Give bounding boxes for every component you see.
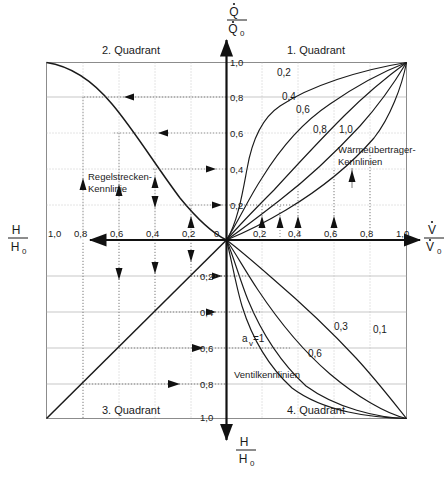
x-axis-right-label: V V 0	[424, 221, 444, 256]
quadrant1-label: 1. Quadrant	[287, 44, 345, 56]
diagram-canvas: 0,2 0,4 0,6 0,8 1,0 Wärmeübertrager- Ken…	[0, 0, 448, 477]
svg-text:1,0: 1,0	[230, 57, 243, 68]
svg-text:H: H	[240, 435, 249, 449]
quadrant4-valve-curves: 0,3 0,1 0,6 a v =1 Ventilkennlinien	[227, 240, 407, 419]
construction-flow-lines	[80, 94, 371, 419]
quadrant2-label: 2. Quadrant	[102, 44, 160, 56]
q-dot-top-den	[232, 21, 234, 23]
svg-text:Q: Q	[229, 5, 238, 19]
svg-text:0,6: 0,6	[324, 228, 337, 239]
x-axis-left-ticks: 0,2 0,4 0,6 0,8 1,0	[48, 228, 195, 239]
curve-label-valve-01: 0,1	[373, 324, 387, 335]
he-annotation-pointer-arrow	[349, 170, 356, 182]
curve-label-he-10: 1,0	[339, 124, 353, 135]
heat-exchanger-annotation-line1: Wärmeübertrager-	[338, 144, 416, 155]
svg-text:H: H	[12, 223, 21, 237]
svg-text:0,2: 0,2	[253, 228, 266, 239]
quadrant3-label: 3. Quadrant	[102, 404, 160, 416]
flow-q3-v4-arrow	[188, 250, 195, 262]
svg-text:H: H	[239, 452, 248, 466]
svg-text:0: 0	[250, 459, 255, 468]
origin-label: 0	[214, 228, 219, 239]
flow-q3-v2-arrow	[116, 268, 123, 280]
curve-diagonal	[47, 240, 227, 419]
y-axis-bottom-ticks: 0,2 0,4 0,6 0,8 1,0	[200, 271, 213, 423]
curve-label-he-08: 0,8	[313, 124, 327, 135]
flow-q2-v3-arrow	[152, 176, 159, 188]
flow-q2-h4-arrow	[212, 202, 222, 209]
svg-text:0: 0	[437, 247, 442, 256]
svg-text:0,8: 0,8	[74, 228, 87, 239]
valve-curves-annotation: Ventilkennlinien	[234, 369, 300, 380]
y-axis-top-label: Q Q 0	[227, 3, 247, 38]
svg-text:0,6: 0,6	[230, 128, 243, 139]
four-quadrant-diagram: 0,2 0,4 0,6 0,8 1,0 Wärmeübertrager- Ken…	[0, 0, 448, 477]
svg-text:0,6: 0,6	[110, 228, 123, 239]
svg-text:V: V	[428, 223, 436, 237]
svg-text:1,0: 1,0	[396, 228, 409, 239]
main-axes	[90, 40, 420, 440]
flow-q2-h3-arrow	[206, 166, 216, 173]
svg-text:0,8: 0,8	[360, 228, 373, 239]
control-curve-annotation-line1: Regelstrecken-	[88, 171, 152, 182]
svg-text:0,6: 0,6	[200, 343, 213, 354]
svg-text:Q: Q	[228, 22, 237, 36]
flow-q3-v3-arrow	[152, 262, 159, 274]
quadrant4-label: 4. Quadrant	[287, 404, 345, 416]
flow-q2-v3-arrow2	[152, 196, 159, 208]
svg-text:0,2: 0,2	[182, 228, 195, 239]
svg-text:0,2: 0,2	[230, 200, 243, 211]
svg-text:0,2: 0,2	[200, 271, 213, 282]
flow-q2-v4-arrow	[188, 216, 195, 228]
curve-label-he-04: 0,4	[282, 91, 296, 102]
svg-text:1,0: 1,0	[200, 412, 213, 423]
y-axis-bottom-label: H H 0	[236, 435, 256, 468]
svg-text:0: 0	[22, 247, 27, 256]
flow-q2-h1-arrow	[124, 94, 134, 101]
flow-q3-h4-arrow	[168, 380, 180, 388]
curve-label-he-02: 0,2	[277, 67, 291, 78]
svg-text:V: V	[426, 240, 434, 254]
curve-label-valve-06: 0,6	[308, 348, 322, 359]
flow-q1-v2-arrow	[277, 216, 284, 228]
flow-q1-v4-arrow	[331, 216, 338, 228]
svg-text:H: H	[11, 240, 20, 254]
quadrant1-heat-exchanger-curves: 0,2 0,4 0,6 0,8 1,0 Wärmeübertrager- Ken…	[227, 63, 416, 241]
svg-text:0,4: 0,4	[288, 228, 301, 239]
curve-label-he-06: 0,6	[296, 104, 310, 115]
flow-q2-h2-arrow	[158, 130, 168, 137]
svg-text:0,4: 0,4	[200, 307, 213, 318]
svg-text:0,4: 0,4	[146, 228, 159, 239]
svg-text:0,8: 0,8	[200, 379, 213, 390]
x-axis-left-label: H H 0	[8, 223, 28, 256]
heat-exchanger-annotation-line2: Kennlinien	[338, 156, 382, 167]
q-dot-top	[233, 3, 235, 5]
quadrant3-diagonal	[47, 240, 227, 419]
flow-q2-v1-arrow	[80, 178, 87, 190]
v-dot-right-den	[429, 239, 431, 241]
x-axis-right-ticks: 0,2 0,4 0,6 0,8 1,0	[253, 228, 409, 239]
svg-text:1,0: 1,0	[48, 228, 61, 239]
svg-text:a: a	[242, 333, 248, 344]
flow-q1-v3-arrow	[295, 216, 302, 228]
valve-param-label: a v =1	[242, 333, 265, 348]
v-dot-right	[431, 221, 433, 223]
flow-q3-h1-arrow	[212, 273, 222, 280]
y-axis-top-ticks: 0,2 0,4 0,6 0,8 1,0	[230, 57, 243, 211]
svg-text:0,8: 0,8	[230, 92, 243, 103]
quadrant2-control-curve: Regelstrecken- Kennlinie	[47, 63, 227, 241]
svg-text:=1: =1	[253, 333, 265, 344]
curve-label-valve-03: 0,3	[334, 321, 348, 332]
svg-text:0,4: 0,4	[230, 164, 243, 175]
svg-text:0: 0	[240, 29, 245, 38]
quadrant-labels: 2. Quadrant 1. Quadrant 3. Quadrant 4. Q…	[102, 44, 345, 416]
curve-regelstrecke	[47, 63, 227, 241]
